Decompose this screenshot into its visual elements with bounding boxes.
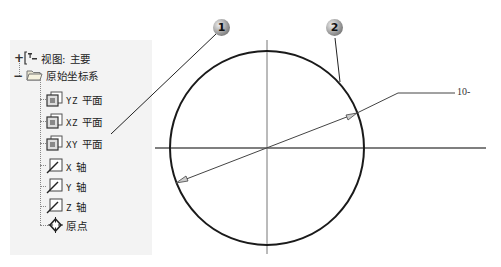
dimension-leader: [357, 93, 455, 113]
callout-1-badge: 1: [213, 19, 230, 36]
diameter-dimension-text[interactable]: 10-: [457, 86, 470, 97]
dimension-suffix: -: [467, 86, 470, 97]
callout-1-leader: [111, 34, 216, 134]
sketch-canvas: [0, 0, 501, 267]
dimension-arrow-right: [346, 113, 357, 120]
callout-2-badge: 2: [326, 19, 343, 36]
dimension-value: 10: [457, 86, 467, 97]
callout-2-leader: [335, 38, 340, 82]
dimension-arrow-left: [176, 176, 188, 183]
